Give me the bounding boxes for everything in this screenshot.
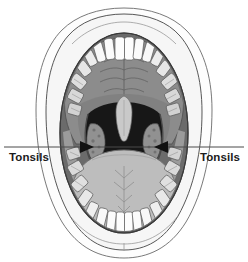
- tonsils-label-right: Tonsils: [200, 152, 240, 164]
- mouth-anatomy-illustration: [0, 0, 248, 262]
- tonsils-label-left: Tonsils: [9, 152, 49, 164]
